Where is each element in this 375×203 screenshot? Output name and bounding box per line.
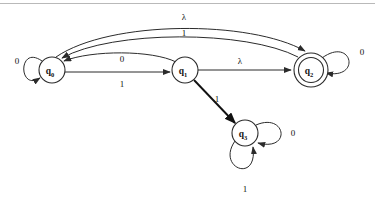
edge-label-q2-self-0: 0 (360, 47, 365, 57)
state-label-q2-sub: 2 (310, 71, 313, 78)
edge-label-q1-q0-0: 0 (120, 54, 125, 64)
automaton-canvas: 0 λ 1 0 1 λ 1 0 1 0 q0 (0, 0, 375, 203)
edge-label-q3-self-0: 0 (291, 128, 296, 138)
edge-label-q3-self-1: 1 (243, 184, 248, 194)
state-node-q2[interactable]: q2 (294, 53, 328, 87)
edge-q2-q0-1 (62, 37, 298, 58)
edge-label-q2-q0-1: 1 (182, 28, 187, 38)
automaton-diagram: 0 λ 1 0 1 λ 1 0 1 0 q0 (0, 0, 375, 203)
edge-q3-q3-0 (256, 122, 281, 144)
state-node-q3[interactable]: q3 (232, 120, 258, 146)
state-node-q0[interactable]: q0 (39, 57, 65, 83)
edge-label-q1-q3-1: 1 (215, 94, 220, 104)
edge-label-q0-q2-lambda: λ (182, 12, 187, 22)
edge-q0-q2-lambda (56, 28, 305, 57)
state-node-q1[interactable]: q1 (172, 57, 198, 83)
edge-label-q1-q2-lambda: λ (238, 56, 243, 66)
edge-label-q0-self: 0 (15, 56, 20, 66)
state-label-q0-sub: 0 (51, 71, 54, 78)
edge-label-q0-q1-1: 1 (120, 79, 125, 89)
state-label-q1-sub: 1 (184, 71, 187, 78)
